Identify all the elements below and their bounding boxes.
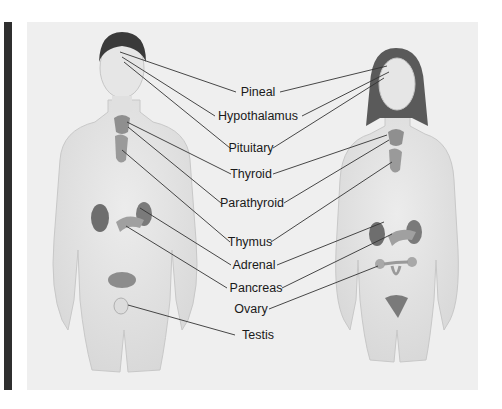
label-adrenal: Adrenal [232,259,275,272]
label-thyroid: Thyroid [230,168,272,181]
label-ovary: Ovary [234,303,267,316]
male-thyroid-gland [114,115,130,134]
female-thyroid-gland [388,129,404,146]
label-pancreas: Pancreas [230,282,283,295]
male-thymus-gland [115,134,128,162]
male-testis [114,298,128,314]
female-kidney-left [369,222,385,246]
male-kidney-left [91,204,109,232]
female-thymus-gland [389,148,402,172]
male-figure [53,32,197,372]
label-testis: Testis [242,329,274,342]
label-hypothalamus: Hypothalamus [218,110,298,123]
label-parathyroid: Parathyroid [220,197,284,210]
label-pituitary: Pituitary [228,142,273,155]
label-pineal: Pineal [241,86,276,99]
female-ovary-right [407,257,417,267]
label-thymus: Thymus [228,236,272,249]
female-ovary-left [375,259,385,269]
female-figure [336,48,459,362]
